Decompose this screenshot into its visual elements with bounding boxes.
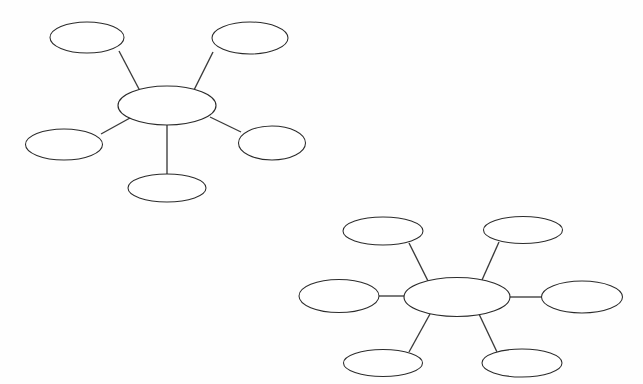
node-left[interactable] [26, 129, 103, 160]
node-bottom-right[interactable] [482, 349, 562, 377]
center-bubble[interactable] [118, 86, 216, 125]
node-bottom-left[interactable] [344, 350, 423, 377]
node-top-left[interactable] [50, 22, 124, 53]
node-top-left[interactable] [343, 217, 423, 245]
node-top-right[interactable] [484, 217, 563, 244]
node-bottom[interactable] [128, 174, 206, 202]
diagram-canvas-wrapper [0, 0, 643, 384]
node-top-right[interactable] [212, 22, 288, 54]
node-right[interactable] [542, 281, 623, 313]
center-bubble[interactable] [404, 278, 510, 317]
node-left[interactable] [299, 280, 379, 313]
node-right[interactable] [239, 126, 306, 160]
concept-web-canvas [0, 0, 643, 384]
canvas-background [0, 0, 643, 384]
